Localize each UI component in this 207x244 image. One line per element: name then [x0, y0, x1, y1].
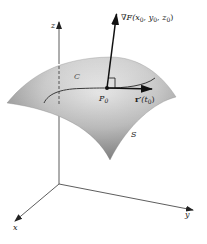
curve-label: C [74, 73, 80, 81]
tangent-label: r′(t0) [135, 95, 155, 105]
point-p0 [105, 86, 109, 90]
y-axis [59, 184, 193, 210]
gradient-arg-x: (x [132, 13, 140, 22]
x-axis [15, 184, 59, 221]
surface-shade [7, 57, 176, 160]
surface-label: S [131, 131, 136, 139]
gradient-symbol: ∇F [121, 13, 132, 22]
point-label-sub: 0 [104, 97, 108, 104]
z-axis-label: z [51, 22, 55, 30]
gradient-tangent-figure: z x y S C P0 ∇F(x0, y0, z0) r′(t0) [0, 0, 207, 244]
tangent-vector-arrow [107, 88, 152, 89]
point-label: P0 [99, 95, 108, 104]
y-axis-label: y [185, 211, 190, 219]
tangent-close: ) [152, 95, 155, 104]
figure-canvas [0, 0, 207, 244]
gradient-label: ∇F(x0, y0, z0) [121, 14, 173, 23]
x-axis-label: x [13, 224, 18, 232]
